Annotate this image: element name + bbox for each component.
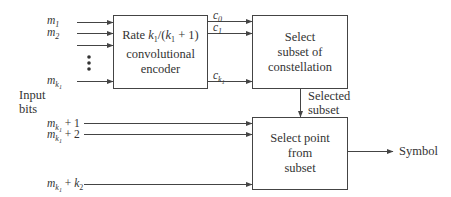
connection-wires bbox=[0, 0, 451, 197]
label-mk1-plus-k2: mk1 + k2 bbox=[47, 177, 83, 196]
label-m2: m2 bbox=[47, 26, 59, 43]
select-point-block: Select point from subset bbox=[252, 117, 348, 190]
ellipsis-dots bbox=[87, 55, 91, 71]
convolutional-encoder-block: Rate k1/(k1 + 1) convolutional encoder bbox=[113, 15, 208, 89]
label-ck1: ck1 bbox=[213, 69, 225, 88]
selected-subset-label: Selected subset bbox=[308, 89, 350, 117]
label-mk1: mk1 bbox=[47, 74, 62, 93]
symbol-label: Symbol bbox=[399, 144, 438, 158]
label-c1: c1 bbox=[213, 21, 222, 38]
select-subset-block: Select subset of constellation bbox=[252, 15, 348, 89]
label-mk1-plus-2: mk1 + 2 bbox=[47, 128, 80, 147]
input-bits-label: Input bits bbox=[19, 88, 45, 116]
